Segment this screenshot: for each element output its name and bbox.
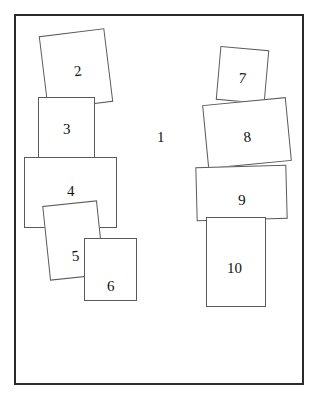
region-2-label: 2 [73,63,82,79]
diagram-canvas: 1 2345678910 [0,0,317,402]
region-4-label: 4 [67,184,75,199]
region-8-rect[interactable]: 8 [202,97,292,169]
region-3-label: 3 [63,122,71,137]
region-5-label: 5 [71,249,80,265]
region-6-rect[interactable]: 6 [84,238,137,301]
region-3-rect[interactable]: 3 [38,97,95,158]
region-10-rect[interactable]: 10 [206,217,266,307]
region-9-rect[interactable]: 9 [195,165,287,221]
region-8-label: 8 [243,130,252,146]
region-7-rect[interactable]: 7 [216,46,270,104]
region-9-label: 9 [238,193,246,208]
region-10-label: 10 [227,261,242,276]
region-7-label: 7 [238,71,247,87]
region-6-label: 6 [107,279,115,294]
region-1-label: 1 [157,130,165,145]
